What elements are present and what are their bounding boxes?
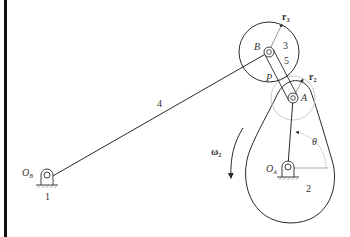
label-r2: r2 bbox=[309, 71, 316, 83]
pin-joint-A bbox=[288, 93, 298, 103]
ground-pivot-OB bbox=[36, 169, 58, 188]
link-OA-A bbox=[288, 99, 293, 165]
label-gear-3: 3 bbox=[283, 40, 288, 51]
label-r3: r3 bbox=[282, 11, 289, 23]
label-OA: OA bbox=[266, 163, 277, 175]
pin-joint-B bbox=[264, 47, 274, 57]
label-OB: OB bbox=[22, 167, 33, 179]
omega-arrow bbox=[231, 128, 243, 178]
label-P: P bbox=[265, 72, 272, 83]
link-4 bbox=[51, 52, 269, 177]
mechanism-diagram: 4 1 OB OA B A P 3 5 2 r3 r2 ω2 θ bbox=[0, 0, 350, 237]
label-omega2: ω2 bbox=[211, 146, 221, 158]
label-theta: θ bbox=[312, 136, 317, 147]
ground-pivot-OA bbox=[277, 161, 299, 180]
left-border bbox=[4, 0, 7, 237]
label-ground-1: 1 bbox=[45, 191, 50, 202]
label-link-5: 5 bbox=[284, 55, 289, 66]
label-B: B bbox=[254, 41, 260, 52]
label-A: A bbox=[300, 92, 308, 103]
label-body-2: 2 bbox=[306, 183, 311, 194]
theta-arc bbox=[296, 132, 326, 168]
label-link-4: 4 bbox=[157, 98, 162, 109]
